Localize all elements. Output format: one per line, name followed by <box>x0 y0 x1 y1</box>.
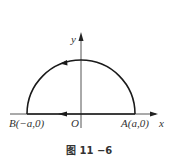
x-axis-arrow-icon <box>150 112 158 117</box>
segment-direction-arrow-icon <box>58 112 67 117</box>
y-axis-label: y <box>70 33 76 45</box>
x-axis-label: x <box>158 117 164 129</box>
y-axis-arrow-icon <box>79 32 84 41</box>
diagram-canvas: y x O B(−a,0) A(a,0) 图 11 −6 <box>0 0 176 165</box>
origin-label: O <box>71 117 79 129</box>
point-b-label: B(−a,0) <box>9 117 45 130</box>
point-a-label: A(a,0) <box>120 117 149 130</box>
figure-caption: 图 11 −6 <box>66 145 112 156</box>
